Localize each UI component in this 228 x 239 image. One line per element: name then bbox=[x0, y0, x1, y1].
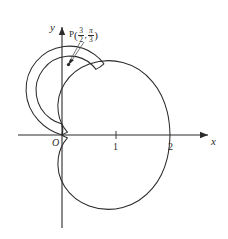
circle-curve bbox=[26, 46, 104, 135]
plot-canvas bbox=[0, 0, 228, 239]
point-p-marker bbox=[67, 63, 70, 66]
point-p-close-paren: ) bbox=[94, 29, 98, 41]
x-axis-label: x bbox=[211, 136, 216, 147]
point-p-separator: , bbox=[84, 30, 86, 40]
x-tick-label-2: 2 bbox=[168, 142, 173, 152]
point-p-angle-fraction: π3 bbox=[88, 27, 94, 43]
y-axis-arrow-icon bbox=[59, 27, 65, 35]
x-axis-arrow-icon bbox=[200, 132, 208, 138]
point-p-angle-denominator: 3 bbox=[88, 36, 94, 44]
polar-plot-figure: y x O 1 2 P(32, π3) bbox=[0, 0, 228, 239]
point-p-leader-line bbox=[71, 42, 85, 63]
x-tick-label-1: 1 bbox=[113, 142, 118, 152]
origin-label: O bbox=[52, 138, 59, 148]
point-p-label: P(32, π3) bbox=[69, 27, 98, 43]
y-axis-label: y bbox=[50, 22, 55, 33]
point-p-open-paren: ( bbox=[74, 29, 78, 41]
